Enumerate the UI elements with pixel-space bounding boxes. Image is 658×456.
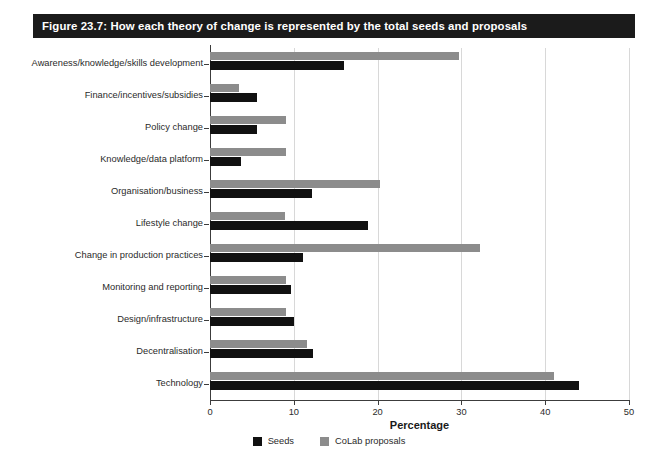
bar-group bbox=[210, 304, 629, 336]
bar-seeds bbox=[210, 253, 303, 262]
y-axis-tick bbox=[204, 96, 209, 97]
y-axis-tick-label: Design/infrastructure bbox=[3, 314, 203, 324]
bar-colab-proposals bbox=[210, 84, 239, 92]
figure-title-bar: Figure 23.7: How each theory of change i… bbox=[33, 14, 635, 38]
bar-seeds bbox=[210, 285, 291, 294]
x-axis-tick-label: 50 bbox=[609, 407, 649, 417]
bar-seeds bbox=[210, 349, 313, 358]
y-axis-tick-label: Knowledge/data platform bbox=[3, 154, 203, 164]
bar-group bbox=[210, 240, 629, 272]
bar-colab-proposals bbox=[210, 244, 480, 252]
x-axis-tick-label: 0 bbox=[190, 407, 230, 417]
bar-seeds bbox=[210, 221, 368, 230]
x-axis-tick bbox=[210, 400, 211, 405]
x-axis-tick-label: 10 bbox=[274, 407, 314, 417]
x-axis-tick-label: 20 bbox=[358, 407, 398, 417]
y-axis-tick bbox=[204, 192, 209, 193]
x-axis-tick bbox=[378, 400, 379, 405]
x-axis-line bbox=[210, 400, 630, 401]
bar-colab-proposals bbox=[210, 372, 554, 380]
y-axis-tick bbox=[204, 224, 209, 225]
bar-colab-proposals bbox=[210, 180, 380, 188]
y-axis-tick-label: Decentralisation bbox=[3, 346, 203, 356]
legend-item: Seeds bbox=[253, 436, 294, 446]
y-axis-tick-label: Finance/incentives/subsidies bbox=[3, 90, 203, 100]
x-axis-tick-label: 30 bbox=[441, 407, 481, 417]
bar-colab-proposals bbox=[210, 340, 307, 348]
figure-title: Figure 23.7: How each theory of change i… bbox=[33, 20, 527, 32]
bar-colab-proposals bbox=[210, 148, 286, 156]
x-axis-tick bbox=[461, 400, 462, 405]
y-axis-tick bbox=[204, 256, 209, 257]
legend-label: Seeds bbox=[268, 436, 294, 446]
y-axis-tick bbox=[204, 128, 209, 129]
y-axis-tick bbox=[204, 160, 209, 161]
chart-legend: SeedsCoLab proposals bbox=[0, 436, 658, 446]
bar-group bbox=[210, 368, 629, 400]
x-axis-tick-label: 40 bbox=[525, 407, 565, 417]
y-axis-tick-label: Monitoring and reporting bbox=[3, 282, 203, 292]
bar-seeds bbox=[210, 189, 312, 198]
legend-item: CoLab proposals bbox=[320, 436, 405, 446]
bar-seeds bbox=[210, 317, 294, 326]
bar-colab-proposals bbox=[210, 116, 286, 124]
y-axis-tick bbox=[204, 384, 209, 385]
x-axis-tick bbox=[545, 400, 546, 405]
bar-colab-proposals bbox=[210, 212, 285, 220]
bar-seeds bbox=[210, 157, 241, 166]
y-axis-tick-label: Technology bbox=[3, 378, 203, 388]
legend-label: CoLab proposals bbox=[335, 436, 405, 446]
y-axis-category-labels: Awareness/knowledge/skills developmentFi… bbox=[0, 48, 203, 400]
y-axis-tick bbox=[204, 352, 209, 353]
y-axis-tick-label: Change in production practices bbox=[3, 250, 203, 260]
bar-colab-proposals bbox=[210, 308, 286, 316]
legend-swatch-icon bbox=[320, 437, 329, 446]
y-axis-tick bbox=[204, 288, 209, 289]
bar-colab-proposals bbox=[210, 52, 459, 60]
y-axis-tick bbox=[204, 64, 209, 65]
x-axis-tick bbox=[629, 400, 630, 405]
gridline bbox=[629, 48, 630, 400]
bar-seeds bbox=[210, 381, 579, 390]
bar-group bbox=[210, 80, 629, 112]
bar-group bbox=[210, 272, 629, 304]
bar-group bbox=[210, 112, 629, 144]
y-axis-tick-label: Awareness/knowledge/skills development bbox=[3, 58, 203, 68]
y-axis-tick-label: Policy change bbox=[3, 122, 203, 132]
bar-group bbox=[210, 208, 629, 240]
plot-area bbox=[210, 48, 629, 400]
bar-seeds bbox=[210, 125, 257, 134]
bar-group bbox=[210, 144, 629, 176]
bar-group bbox=[210, 48, 629, 80]
bar-group bbox=[210, 336, 629, 368]
y-axis-tick-label: Organisation/business bbox=[3, 186, 203, 196]
x-axis-title: Percentage bbox=[210, 419, 629, 431]
y-axis-tick-label: Lifestyle change bbox=[3, 218, 203, 228]
bar-colab-proposals bbox=[210, 276, 286, 284]
bar-group bbox=[210, 176, 629, 208]
bar-seeds bbox=[210, 61, 344, 70]
bar-seeds bbox=[210, 93, 257, 102]
figure-container: Figure 23.7: How each theory of change i… bbox=[0, 0, 658, 456]
x-axis-tick bbox=[294, 400, 295, 405]
legend-swatch-icon bbox=[253, 437, 262, 446]
y-axis-tick bbox=[204, 320, 209, 321]
